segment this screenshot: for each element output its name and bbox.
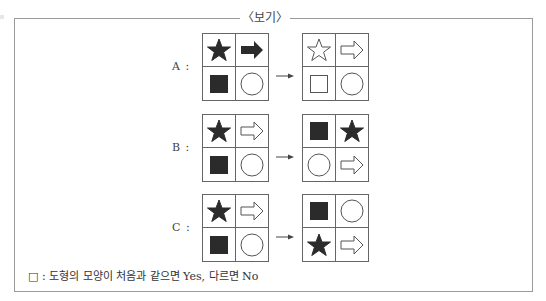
grid-cell (203, 148, 236, 181)
circle-outline-icon (239, 152, 265, 178)
grid-cell (236, 195, 269, 228)
grid-cell (336, 115, 369, 148)
row-label: C : (172, 221, 191, 234)
example-box (14, 18, 533, 292)
after-grid (302, 33, 369, 101)
star-filled-icon (306, 232, 332, 258)
arrow-outline-icon (339, 37, 365, 63)
square-filled-icon (206, 232, 232, 258)
grid-cell (303, 195, 336, 228)
grid-cell (203, 67, 236, 100)
grid-cell (203, 34, 236, 67)
star-filled-icon (339, 118, 365, 144)
before-grid (202, 194, 269, 262)
square-outline-icon (306, 71, 332, 97)
after-grid (302, 194, 369, 262)
arrow-outline-icon (339, 232, 365, 258)
square-filled-icon (206, 152, 232, 178)
grid-cell (303, 34, 336, 67)
row-label: A : (172, 60, 190, 73)
square-filled-icon (306, 118, 332, 144)
grid-cell (336, 34, 369, 67)
circle-outline-icon (306, 152, 332, 178)
grid-cell (303, 148, 336, 181)
before-grid (202, 33, 269, 101)
grid-cell (336, 195, 369, 228)
circle-outline-icon (239, 71, 265, 97)
arrow-outline-icon (239, 118, 265, 144)
legend-note: □ : 도형의 모양이 처음과 같으면 Yes, 다르면 No (28, 267, 258, 283)
margin-mark (0, 15, 4, 19)
box-title: 〈보기〉 (240, 10, 290, 26)
star-filled-icon (206, 118, 232, 144)
circle-outline-icon (239, 232, 265, 258)
row-label: B : (172, 141, 190, 154)
grid-cell (236, 34, 269, 67)
star-filled-icon (206, 37, 232, 63)
star-outline-icon (306, 37, 332, 63)
square-filled-icon (306, 198, 332, 224)
arrow-outline-icon (339, 152, 365, 178)
arrow-filled-icon (239, 37, 265, 63)
star-filled-icon (206, 198, 232, 224)
grid-cell (336, 67, 369, 100)
grid-cell (336, 228, 369, 261)
after-grid (302, 114, 369, 182)
transform-arrow-icon (276, 64, 294, 70)
grid-cell (303, 115, 336, 148)
square-filled-icon (206, 71, 232, 97)
grid-cell (236, 228, 269, 261)
grid-cell (303, 67, 336, 100)
before-grid (202, 114, 269, 182)
grid-cell (303, 228, 336, 261)
grid-cell (203, 115, 236, 148)
arrow-outline-icon (239, 198, 265, 224)
grid-cell (236, 115, 269, 148)
circle-outline-icon (339, 198, 365, 224)
grid-cell (236, 148, 269, 181)
grid-cell (236, 67, 269, 100)
circle-outline-icon (339, 71, 365, 97)
transform-arrow-icon (276, 225, 294, 231)
grid-cell (203, 228, 236, 261)
grid-cell (203, 195, 236, 228)
grid-cell (336, 148, 369, 181)
transform-arrow-icon (276, 145, 294, 151)
